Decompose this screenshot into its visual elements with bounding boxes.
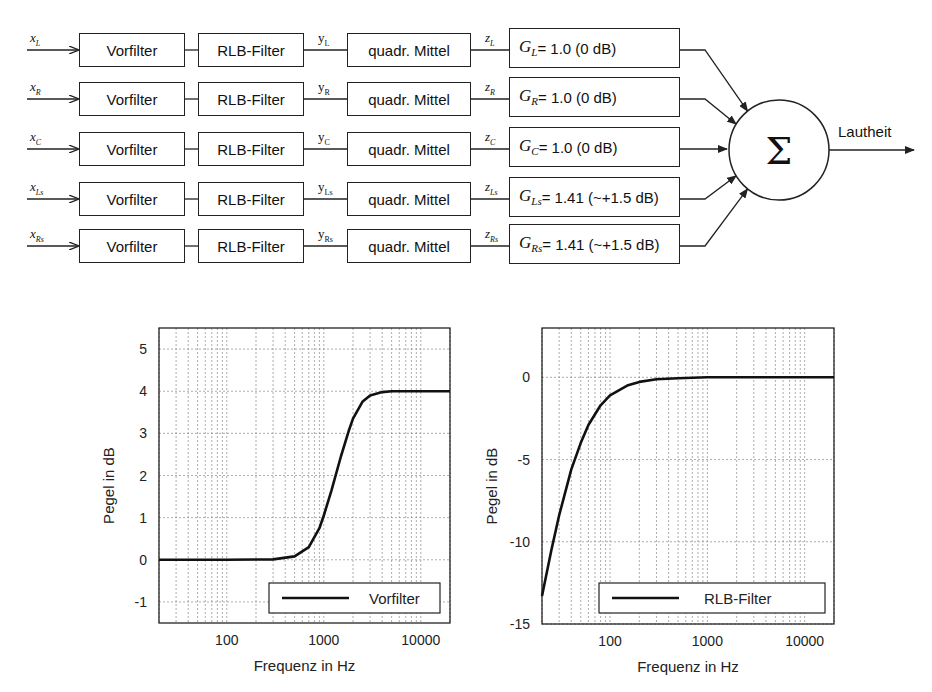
y-tick-label: -1 <box>135 594 148 610</box>
plot-frame <box>542 328 834 624</box>
series-line <box>542 377 834 596</box>
y-axis-label: Pegel in dB <box>100 447 117 524</box>
x-tick-label: 1000 <box>692 633 723 649</box>
x-tick-label: 100 <box>215 632 239 648</box>
y-tick-label: 3 <box>139 425 147 441</box>
vorfilter-chart: -1012345100100010000VorfilterFrequenz in… <box>100 328 450 674</box>
x-tick-label: 10000 <box>401 632 440 648</box>
legend-label: Vorfilter <box>369 590 420 607</box>
x-tick-label: 100 <box>598 633 622 649</box>
y-tick-label: -15 <box>510 616 530 632</box>
frequency-response-charts: -1012345100100010000VorfilterFrequenz in… <box>0 0 932 692</box>
y-tick-label: -5 <box>518 452 531 468</box>
rlb-filter-chart: -15-10-50100100010000RLB-FilterFrequenz … <box>483 328 834 675</box>
legend-label: RLB-Filter <box>704 590 772 607</box>
y-tick-label: 2 <box>139 468 147 484</box>
x-axis-label: Frequenz in Hz <box>637 658 739 675</box>
y-tick-label: 0 <box>139 552 147 568</box>
x-axis-label: Frequenz in Hz <box>254 657 356 674</box>
y-tick-label: 0 <box>522 369 530 385</box>
x-tick-label: 10000 <box>785 633 824 649</box>
y-tick-label: 4 <box>139 383 147 399</box>
y-axis-label: Pegel in dB <box>483 448 500 525</box>
y-tick-label: 1 <box>139 510 147 526</box>
y-tick-label: -10 <box>510 534 530 550</box>
y-tick-label: 5 <box>139 341 147 357</box>
x-tick-label: 1000 <box>308 632 339 648</box>
